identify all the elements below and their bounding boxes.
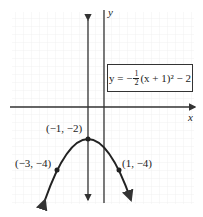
equation-box: y = − 12 (x + 1)² − 2 — [107, 64, 193, 92]
y-axis-label: y — [108, 6, 113, 18]
right-point-label: (1, −4) — [122, 157, 152, 169]
plot-area — [0, 0, 203, 217]
equation-lhs: y = − — [109, 72, 132, 84]
equation-rhs: (x + 1)² − 2 — [140, 72, 191, 84]
point-right — [117, 168, 122, 173]
grid — [12, 12, 194, 204]
graph: y x y = − 12 (x + 1)² − 2 (−1, −2) (−3, … — [0, 0, 203, 217]
point-left — [55, 168, 60, 173]
vertex-label: (−1, −2) — [46, 122, 82, 134]
x-axis-label: x — [188, 111, 193, 123]
vertex-point — [86, 137, 91, 142]
equation-fraction: 12 — [133, 70, 139, 87]
left-point-label: (−3, −4) — [15, 157, 51, 169]
